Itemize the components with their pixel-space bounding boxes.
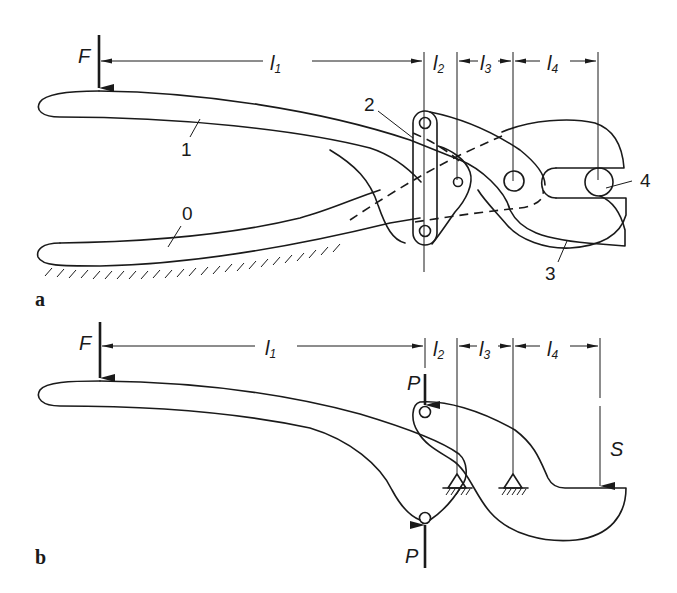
force-label-p-bottom: P <box>405 545 419 567</box>
pliers-diagram: F l1 l2 l3 l4 <box>0 0 677 593</box>
dim-label-l2: l2 <box>433 52 444 76</box>
dimension-lines-b: l1 l2 l3 l4 <box>102 337 600 474</box>
dim-label-l2-b: l2 <box>433 338 444 362</box>
dim-label-l4-b: l4 <box>547 338 558 362</box>
panel-label-a: a <box>35 288 45 310</box>
part-label-1: 1 <box>181 139 192 160</box>
panel-b: F l1 l2 l3 l4 P <box>35 322 626 568</box>
dim-label-l4: l4 <box>547 52 558 76</box>
pin-top-b <box>420 407 431 418</box>
force-label-f-b: F <box>79 332 93 354</box>
dim-label-l3: l3 <box>480 52 491 76</box>
pivot-pin <box>504 171 524 191</box>
dim-label-l1-b: l1 <box>265 337 276 361</box>
panel-label-b: b <box>35 546 46 568</box>
lever-left <box>38 381 420 520</box>
pin-top <box>420 118 431 129</box>
pin-bottom-b <box>420 513 431 524</box>
pin-triangle <box>454 178 463 187</box>
ground-hatch <box>45 244 340 279</box>
force-arrow-p-top: P <box>407 372 425 405</box>
part-label-3: 3 <box>545 263 556 284</box>
handle-lower <box>60 190 380 243</box>
part-label-4: 4 <box>640 170 651 191</box>
dimension-lines: l1 l2 l3 l4 <box>101 52 598 272</box>
force-arrow-f-b: F <box>79 322 100 378</box>
dim-label-l3-b: l3 <box>479 338 490 362</box>
pin-bottom <box>420 226 431 237</box>
panel-a: F l1 l2 l3 l4 <box>35 35 651 310</box>
force-arrow-s: S <box>600 406 624 486</box>
roller-4 <box>585 168 613 196</box>
jaw-lower <box>478 190 626 248</box>
part-label-0: 0 <box>182 203 193 224</box>
handle-upper <box>99 91 625 246</box>
dim-label-l1: l1 <box>270 52 281 76</box>
force-arrow-f: F <box>78 35 99 88</box>
lever-right <box>413 402 626 541</box>
jaw-upper <box>502 120 624 168</box>
support-right <box>499 474 528 495</box>
force-label-p-top: P <box>407 372 421 394</box>
force-label-s: S <box>610 438 624 460</box>
part-label-2: 2 <box>364 94 375 115</box>
force-arrow-p-bottom: P <box>405 525 425 568</box>
force-label-f: F <box>78 45 92 67</box>
